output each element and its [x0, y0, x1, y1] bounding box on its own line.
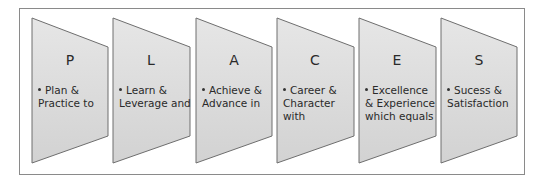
item-letter: C — [277, 52, 353, 68]
bullet-icon — [283, 88, 286, 91]
item-letter: P — [32, 52, 108, 68]
item-bullet: Career & Character with — [283, 84, 357, 123]
item-bullet: Learn & Leverage and — [119, 84, 193, 110]
item-bullet: Plan & Practice to — [38, 84, 112, 110]
item-text: Career & Character with — [283, 84, 337, 122]
item-bullet: Excellence & Experience which equals — [365, 84, 439, 123]
plaees-diagram: P Plan & Practice to L Learn & Leverage … — [0, 0, 546, 186]
item-text: Achieve & Advance in — [202, 84, 262, 109]
bullet-icon — [365, 88, 368, 91]
item-letter: S — [441, 52, 517, 68]
item-text: Plan & Practice to — [38, 84, 94, 109]
item-bullet: Achieve & Advance in — [202, 84, 276, 110]
bullet-icon — [119, 88, 122, 91]
bullet-icon — [447, 88, 450, 91]
item-letter: A — [196, 52, 272, 68]
bullet-icon — [38, 88, 41, 91]
item-letter: E — [359, 52, 435, 68]
item-bullet: Sucess & Satisfaction — [447, 84, 521, 110]
bullet-icon — [202, 88, 205, 91]
item-text: Learn & Leverage and — [119, 84, 191, 109]
item-letter: L — [113, 52, 189, 68]
item-text: Sucess & Satisfaction — [447, 84, 509, 109]
item-text: Excellence & Experience which equals — [365, 84, 435, 122]
